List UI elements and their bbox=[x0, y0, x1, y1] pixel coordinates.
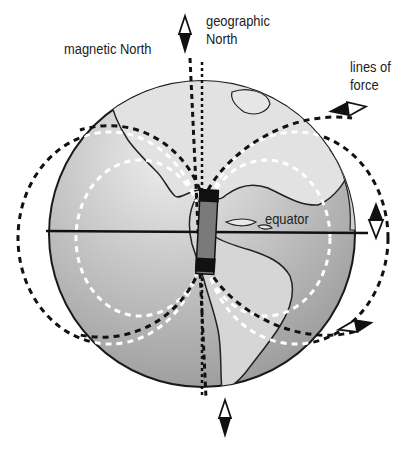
label-lines-of-force-line1: lines of bbox=[350, 58, 391, 75]
compass-needle-upper-right bbox=[327, 100, 367, 119]
compass-needle-north bbox=[179, 16, 191, 54]
compass-needle-south bbox=[219, 400, 231, 438]
label-magnetic-north: magnetic North bbox=[64, 40, 151, 57]
label-geographic-north-line2: North bbox=[206, 30, 238, 47]
label-lines-of-force-line2: force bbox=[350, 76, 379, 93]
label-equator: equator bbox=[265, 210, 309, 227]
magnetic-field-diagram bbox=[0, 0, 403, 452]
label-geographic-north-line1: geographic bbox=[206, 12, 270, 29]
compass-needle-east bbox=[369, 202, 383, 238]
